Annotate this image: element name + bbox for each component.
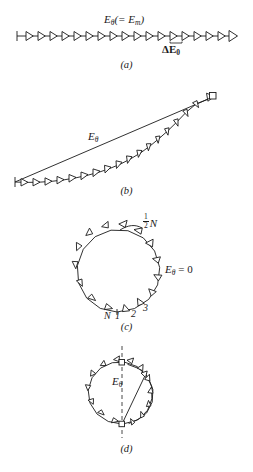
figure-root: Eθ(= Em) ΔE0 (a) — [0, 0, 253, 472]
panel-d-caption: (d) — [0, 444, 253, 455]
panel-d-resultant-head — [141, 371, 147, 378]
panel-d-bottom-node — [119, 421, 125, 427]
panel-d-arrowheads — [85, 356, 153, 425]
panel-d-chain-overlap — [124, 364, 153, 423]
panel-d-graphic — [0, 0, 253, 472]
panel-d-resultant-label: Eθ — [112, 376, 122, 388]
panel-d-top-node — [119, 360, 125, 366]
